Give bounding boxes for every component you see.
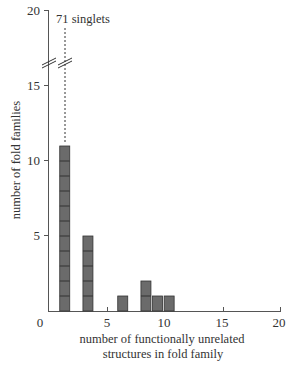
x-axis-title-line2: structures in fold family [103, 347, 224, 361]
y-axis-title: number of fold families [9, 101, 23, 220]
x-axis-title-line1: number of functionally unrelated [80, 332, 246, 346]
histogram-bar [83, 236, 93, 311]
x-tick-label-10: 10 [158, 315, 171, 330]
x-tick-label-5: 5 [104, 315, 111, 330]
x-ticks [108, 307, 281, 312]
histogram-bar [153, 296, 163, 311]
bars-group [60, 146, 174, 311]
singlets-annotation: 71 singlets [56, 12, 110, 26]
y-ticks [44, 11, 49, 236]
y-tick-label-15: 15 [27, 78, 40, 93]
x-tick-label-15: 15 [216, 315, 229, 330]
y-tick-label-20: 20 [27, 3, 40, 18]
x-tick-label-0: 0 [37, 315, 44, 330]
y-tick-label-10: 10 [27, 153, 40, 168]
axis-break-icon [42, 58, 72, 68]
y-tick-label-5: 5 [34, 228, 41, 243]
histogram-chart: 20 15 10 5 0 5 10 15 20 number of fold f… [0, 0, 301, 368]
x-tick-label-20: 20 [273, 315, 286, 330]
histogram-bar [118, 296, 128, 311]
figure-caption-clipped [8, 361, 298, 368]
histogram-bar [164, 296, 174, 311]
histogram-bar [60, 146, 70, 311]
